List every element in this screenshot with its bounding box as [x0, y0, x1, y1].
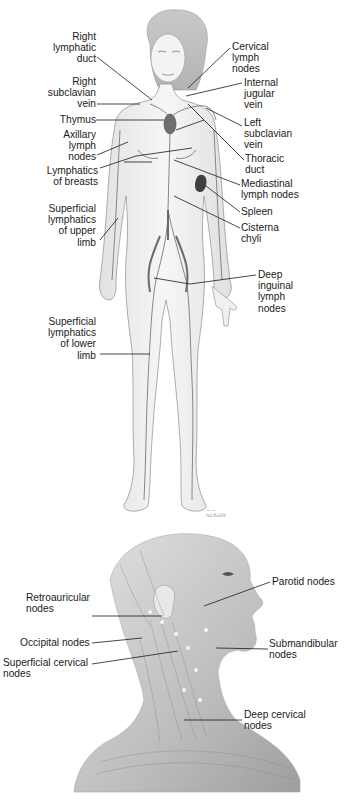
label-axillary-lymph-nodes: Axillary lymph nodes: [30, 129, 96, 163]
head-neck-lymph-figure: Retroauricular nodes Occipital nodes Sup…: [0, 530, 345, 802]
label-superficial-lymphatics-lower-limb: Superficial lymphatics of lower limb: [20, 316, 96, 361]
label-left-subclavian-vein: Left subclavian vein: [244, 117, 324, 151]
label-submandibular-nodes: Submandibular nodes: [269, 638, 345, 660]
label-deep-inguinal-lymph-nodes: Deep inguinal lymph nodes: [258, 269, 338, 314]
label-spleen: Spleen: [241, 206, 321, 217]
body-lymphatic-figure: Right lymphatic duct Right subclavian ve…: [0, 0, 345, 530]
label-deep-cervical-nodes: Deep cervical nodes: [244, 709, 324, 731]
label-cisterna-chyli: Cisterna chyli: [241, 222, 321, 244]
label-right-lymphatic-duct: Right lymphatic duct: [40, 31, 96, 65]
label-occipital-nodes: Occipital nodes: [20, 637, 120, 648]
label-parotid-nodes: Parotid nodes: [272, 576, 344, 587]
label-thymus: Thymus: [30, 114, 96, 125]
label-lymphatics-of-breasts: Lymphatics of breasts: [20, 165, 98, 187]
artist-signature: ~ ~ nicholls: [206, 508, 226, 518]
label-retroauricular-nodes: Retroauricular nodes: [26, 592, 126, 614]
label-thoracic-duct: Thoracic duct: [245, 153, 325, 175]
label-superficial-cervical-nodes: Superficial cervical nodes: [3, 657, 113, 679]
label-internal-jugular-vein: Internal jugular vein: [244, 77, 324, 111]
label-superficial-lymphatics-upper-limb: Superficial lymphatics of upper limb: [20, 203, 96, 248]
label-right-subclavian-vein: Right subclavian vein: [30, 76, 96, 110]
label-cervical-lymph-nodes: Cervical lymph nodes: [232, 41, 312, 75]
thymus-organ: [164, 114, 176, 134]
face: [151, 34, 185, 82]
label-mediastinal-lymph-nodes: Mediastinal lymph nodes: [241, 178, 341, 200]
